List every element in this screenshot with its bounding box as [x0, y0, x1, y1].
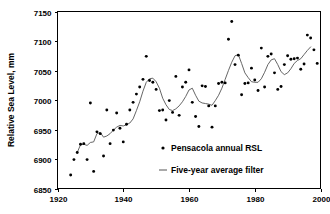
data-point: [132, 101, 135, 104]
y-tick-label: 6950: [34, 127, 52, 136]
data-point: [204, 85, 207, 88]
data-point: [161, 109, 164, 112]
x-tick-label: 1940: [115, 195, 133, 204]
data-point: [191, 101, 194, 104]
data-point: [96, 130, 99, 133]
data-point: [289, 58, 292, 61]
data-point: [293, 57, 296, 60]
data-point: [227, 38, 230, 41]
data-point: [165, 119, 168, 122]
data-point: [224, 81, 227, 84]
x-tick-label: 1920: [50, 195, 68, 204]
data-point: [283, 63, 286, 66]
data-point: [243, 82, 246, 85]
data-point: [125, 123, 128, 126]
data-point: [86, 158, 89, 161]
data-point: [220, 81, 223, 84]
plot-background: [57, 11, 321, 188]
data-point: [296, 57, 299, 60]
data-point: [217, 82, 220, 85]
y-axis-title: Relative Sea Level, mm: [6, 53, 16, 147]
data-point: [142, 78, 145, 81]
data-point: [309, 37, 312, 40]
data-point: [276, 88, 279, 91]
sea-level-chart: 6850690069507000705071007150 19201940196…: [0, 0, 330, 214]
data-point: [102, 155, 105, 158]
x-tick-label: 1980: [247, 195, 265, 204]
data-point: [257, 89, 260, 92]
data-point: [112, 129, 115, 132]
data-point: [197, 125, 200, 128]
axis-titles: Relative Sea Level, mm: [6, 53, 16, 147]
legend-label-filter: Five-year average filter: [171, 165, 264, 175]
data-point: [214, 104, 217, 107]
data-point: [312, 48, 315, 51]
data-point: [72, 158, 75, 161]
y-tick-label: 7100: [34, 38, 52, 47]
data-point: [99, 132, 102, 135]
y-tick-label: 7000: [34, 97, 52, 106]
data-point: [184, 81, 187, 84]
data-point: [270, 53, 273, 56]
data-point: [237, 54, 240, 57]
x-axis-ticks: 19201940196019802000: [50, 189, 330, 204]
data-point: [286, 54, 289, 57]
data-point: [168, 99, 171, 102]
data-point: [76, 151, 79, 154]
data-point: [89, 102, 92, 105]
data-point: [260, 47, 263, 50]
data-point: [109, 142, 112, 145]
data-point: [135, 93, 138, 96]
data-point: [280, 85, 283, 88]
data-point: [145, 55, 148, 58]
data-point: [92, 170, 95, 173]
data-point: [69, 173, 72, 176]
data-point: [240, 93, 243, 96]
data-point: [234, 63, 237, 66]
data-point: [105, 109, 108, 112]
data-point: [273, 71, 276, 74]
data-point: [263, 86, 266, 89]
data-point: [155, 88, 158, 91]
data-point: [174, 75, 177, 78]
data-point: [115, 112, 118, 115]
data-point: [266, 55, 269, 58]
legend-dot-icon: [161, 146, 164, 149]
data-point: [250, 67, 253, 70]
y-tick-label: 6900: [34, 156, 52, 165]
data-point: [194, 115, 197, 118]
data-point: [151, 81, 154, 84]
data-point: [82, 142, 85, 145]
data-point: [299, 68, 302, 71]
data-point: [181, 86, 184, 89]
data-point: [201, 84, 204, 87]
data-point: [207, 104, 210, 107]
data-point: [148, 79, 151, 82]
legend-label-annual: Pensacola annual RSL: [171, 143, 262, 153]
data-point: [306, 34, 309, 37]
data-point: [178, 114, 181, 117]
x-tick-label: 2000: [313, 195, 330, 204]
y-tick-label: 6850: [34, 186, 52, 195]
data-point: [122, 140, 125, 143]
data-point: [119, 127, 122, 130]
data-point: [253, 78, 256, 81]
data-point: [128, 109, 131, 112]
data-point: [303, 63, 306, 66]
data-point: [247, 81, 250, 84]
data-point: [138, 86, 141, 89]
data-point: [79, 143, 82, 146]
y-tick-label: 7050: [34, 68, 52, 77]
y-axis-ticks: 6850690069507000705071007150: [34, 9, 58, 195]
data-point: [158, 109, 161, 112]
data-point: [211, 126, 214, 129]
data-point: [230, 20, 233, 23]
data-point: [316, 62, 319, 65]
x-tick-label: 1960: [181, 195, 199, 204]
data-point: [188, 68, 191, 71]
data-point: [171, 111, 174, 114]
chart-figure: 6850690069507000705071007150 19201940196…: [0, 0, 330, 214]
y-tick-label: 7150: [34, 9, 52, 18]
